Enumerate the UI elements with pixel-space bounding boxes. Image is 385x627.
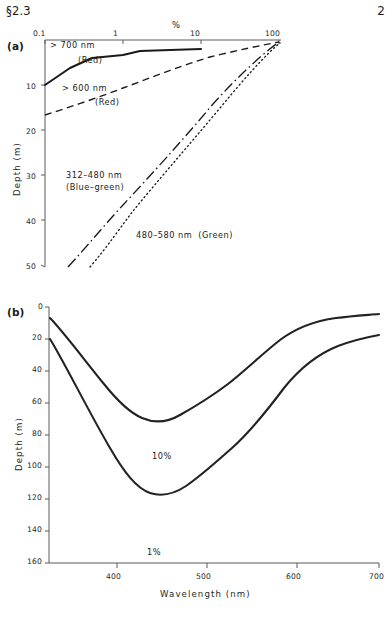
running-head: §2.3 [6, 4, 31, 18]
panel-b-curve-ten-percent [50, 314, 379, 422]
panel-a: (a) % 0.1 1 10 100 10 20 30 40 50 Depth … [0, 18, 383, 280]
page-number: 2 [377, 4, 385, 18]
panel-b-plot [0, 296, 383, 596]
panel-a-plot [0, 18, 290, 280]
panel-a-curve-green [90, 43, 280, 267]
panel-b: (b) 0 20 40 60 80 100 120 140 160 Depth … [0, 296, 383, 627]
panel-b-curve-one-percent [50, 335, 379, 495]
panel-a-curve-red-over-600 [45, 42, 279, 115]
